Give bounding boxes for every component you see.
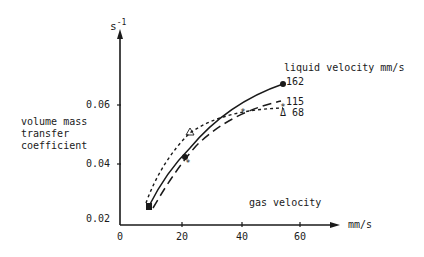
y-axis-title-line-1: volume mass	[21, 116, 87, 128]
x-tick-label-20: 20	[176, 231, 188, 243]
y-axis-title-line-2: transfer	[21, 128, 69, 140]
legend-label-68: Δ 68	[280, 107, 304, 119]
legend-label-162: 162	[286, 76, 304, 88]
series-115-marker: *	[185, 158, 190, 168]
x-tick-label-40: 40	[236, 231, 248, 243]
y-unit-label: s-1	[110, 17, 126, 33]
x-axis-arrow-icon	[330, 222, 340, 228]
series-115-line	[153, 101, 281, 208]
y-unit-base: s	[110, 20, 117, 33]
x-unit-label: mm/s	[348, 219, 372, 231]
x-axis-title: gas velocity	[249, 197, 321, 209]
y-unit-exponent: -1	[117, 18, 127, 27]
y-tick-label-0.04: 0.04	[86, 158, 110, 170]
y-tick-label-0.02: 0.02	[86, 213, 110, 225]
start-point-cluster	[146, 203, 152, 210]
x-tick-label-0: 0	[117, 231, 123, 243]
legend-title: liquid velocity mm/s	[284, 62, 404, 74]
series-162-line	[149, 84, 283, 206]
x-tick-label-60: 60	[294, 231, 306, 243]
y-tick-label-0.06: 0.06	[86, 99, 110, 111]
y-axis-title-line-3: coefficient	[21, 140, 87, 152]
